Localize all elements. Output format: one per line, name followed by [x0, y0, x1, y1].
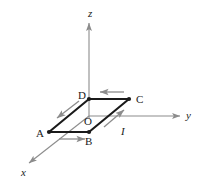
- vertex-label-a: A: [36, 128, 44, 139]
- vertex-label-d: D: [78, 90, 86, 101]
- vertex-dot-d: [87, 97, 91, 101]
- coordinate-loop-diagram: [0, 0, 199, 182]
- current-label: I: [121, 126, 125, 137]
- x-axis-label: x: [21, 167, 26, 178]
- figure-container: z y x O A B C D I: [0, 0, 199, 182]
- vertex-dot-c: [127, 97, 131, 101]
- vertex-label-b: B: [85, 136, 92, 147]
- vertex-dot-a: [47, 130, 51, 134]
- vertex-label-o: O: [84, 116, 92, 127]
- axis-group: [29, 23, 180, 163]
- z-axis-label: z: [88, 8, 92, 19]
- vertex-dot-b: [87, 130, 91, 134]
- vertex-label-c: C: [136, 94, 143, 105]
- segment-DA: [49, 99, 89, 132]
- y-axis-label: y: [186, 110, 191, 121]
